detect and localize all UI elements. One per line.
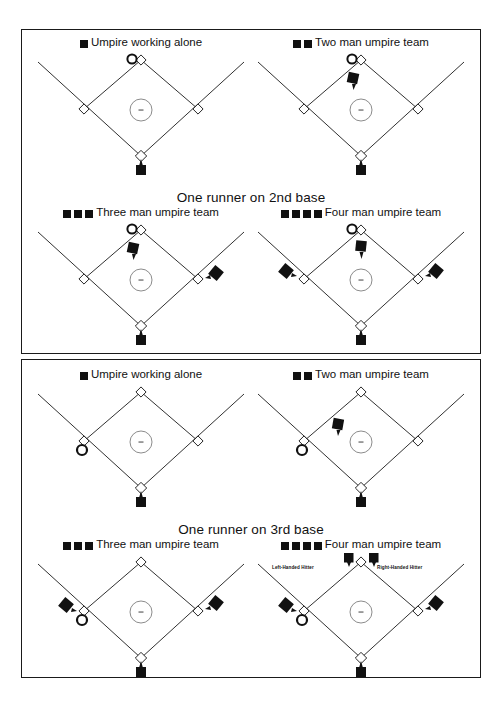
legend-square-icon [281, 210, 289, 218]
pitchers-mound [350, 431, 372, 453]
umpire-outside-first [205, 265, 224, 281]
legend-square-icon [63, 542, 71, 550]
baseball-field [26, 550, 256, 688]
runner-marker-second [347, 54, 356, 63]
legend-square-icon [85, 542, 93, 550]
umpire-plate [136, 491, 146, 507]
legend-square-icon [292, 210, 300, 218]
field-svg [246, 380, 476, 518]
diagram-four-man-3rd: Four man umpire team [246, 538, 476, 688]
legend-square-icon [281, 542, 289, 550]
field-svg [26, 550, 256, 688]
umpire-infield [332, 418, 344, 436]
legend-square-icon [303, 542, 311, 550]
umpire-plate [356, 491, 366, 507]
umpire-plate [356, 329, 366, 345]
panel-caption: One runner on 2nd base [22, 190, 480, 205]
diagram-two-man-2nd: Two man umpire team [246, 36, 476, 186]
legend-square-icon [293, 40, 301, 48]
baseball-field [26, 380, 256, 518]
figure-page: Umpire working alone [0, 0, 500, 701]
pitchers-mound [130, 601, 152, 623]
legend-square-icon [293, 372, 301, 380]
runner-marker-third [77, 445, 87, 455]
pitchers-mound [350, 99, 372, 121]
basepath-third-second [304, 230, 361, 279]
runner-marker-third [297, 445, 307, 455]
baseball-field [246, 48, 476, 186]
pitchers-mound [350, 601, 372, 623]
basepath-third-second [84, 60, 141, 109]
diagram-four-man-2nd: Four man umpire team [246, 206, 476, 356]
legend-square-icon [314, 210, 322, 218]
basepath-third-second [84, 562, 141, 611]
basepath-first-second [141, 60, 198, 109]
legend-square-icon [80, 40, 88, 48]
field-svg [26, 380, 256, 518]
baseball-field [246, 218, 476, 356]
diagram-three-man-2nd: Three man umpire team [26, 206, 256, 356]
umpire-outside-third [278, 597, 297, 613]
basepath-third-second [304, 392, 361, 441]
runner-marker-third [77, 615, 87, 625]
runner-marker-third [297, 615, 307, 625]
left-handed-hitter-label: Left-Handed Hitter [272, 565, 314, 570]
baseball-field [26, 48, 256, 186]
basepath-third-second [84, 392, 141, 441]
basepath-first-second [361, 60, 418, 109]
field-svg [246, 218, 476, 356]
umpire-plate [356, 661, 366, 677]
legend-square-icon [303, 210, 311, 218]
umpire-plate [356, 159, 366, 175]
legend-square-icon [74, 210, 82, 218]
panel-runner-on-3rd: Umpire working alone [21, 359, 481, 678]
basepath-first-second [141, 230, 198, 279]
legend-square-icon [80, 372, 88, 380]
pitchers-mound [350, 269, 372, 291]
pitchers-mound [130, 269, 152, 291]
field-svg [246, 48, 476, 186]
field-svg [246, 550, 476, 688]
basepath-first-second [361, 230, 418, 279]
umpire-infield [127, 242, 140, 260]
legend-square-icon [74, 542, 82, 550]
legend-square-icon [63, 210, 71, 218]
legend-square-icon [85, 210, 93, 218]
legend-square-icon [304, 372, 312, 380]
runner-marker-second [127, 54, 136, 63]
basepath-first-second [141, 562, 198, 611]
panel-runner-on-2nd: Umpire working alone [21, 29, 481, 354]
diagram-two-man-3rd: Two man umpire team [246, 368, 476, 518]
pitchers-mound [130, 99, 152, 121]
panel-caption: One runner on 3rd base [22, 522, 480, 537]
umpire-infield [347, 72, 360, 90]
diagram-three-man-3rd: Three man umpire team [26, 538, 256, 688]
right-handed-hitter-label: Right-Handed Hitter [377, 565, 422, 570]
umpire-outside-third [58, 597, 77, 613]
field-svg [26, 48, 256, 186]
umpire-plate [136, 661, 146, 677]
baseball-field [26, 218, 256, 356]
runner-marker-second [127, 224, 136, 233]
legend-square-icon [314, 542, 322, 550]
baseball-field: Left-Handed Hitter Right-Handed Hitter [246, 550, 476, 688]
legend-square-icon [304, 40, 312, 48]
umpire-infield [355, 240, 367, 259]
basepath-first-second [141, 392, 198, 441]
pitchers-mound [130, 431, 152, 453]
runner-marker-second [347, 224, 356, 233]
field-svg [26, 218, 256, 356]
umpire-plate [136, 159, 146, 175]
umpire-plate [136, 329, 146, 345]
baseball-field [246, 380, 476, 518]
diagram-alone-2nd: Umpire working alone [26, 36, 256, 186]
diagram-alone-3rd: Umpire working alone [26, 368, 256, 518]
legend-square-icon [292, 542, 300, 550]
basepath-first-second [361, 392, 418, 441]
umpire-second-left [344, 553, 354, 567]
